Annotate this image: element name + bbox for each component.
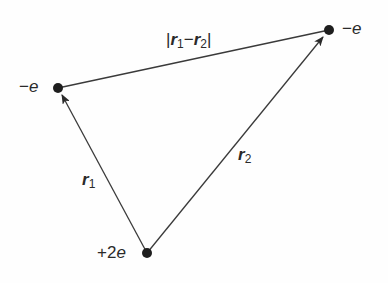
- charge-label-left: −e: [19, 77, 38, 97]
- charge-label-right: −e: [342, 19, 361, 39]
- charge-dot-bottom: [142, 248, 152, 258]
- edge-label-r1-minus-r2: |r1−r2|: [166, 30, 211, 51]
- subscript: 2: [245, 152, 252, 166]
- sign: +2: [97, 243, 116, 262]
- charge-dot-left: [53, 83, 63, 93]
- abs-close: |: [207, 30, 211, 49]
- sign: −: [19, 77, 29, 96]
- symbol: e: [352, 19, 361, 38]
- three-charge-diagram: −e −e +2e r1 r2 |r1−r2|: [0, 0, 388, 283]
- charge-label-bottom: +2e: [97, 243, 126, 263]
- minus-sign: −: [184, 30, 194, 49]
- vector-symbol: r: [238, 145, 245, 164]
- charge-dot-right: [324, 25, 334, 35]
- symbol: e: [29, 77, 38, 96]
- subscript: 1: [89, 177, 96, 191]
- vector-symbol: r: [82, 170, 89, 189]
- subscript-1: 1: [177, 37, 184, 51]
- subscript-2: 2: [200, 37, 207, 51]
- edge-label-r2: r2: [238, 145, 251, 166]
- sign: −: [342, 19, 352, 38]
- edge-r1-arrow: [62, 95, 147, 253]
- symbol: e: [116, 243, 125, 262]
- edge-r2-arrow: [147, 37, 323, 253]
- edge-label-r1: r1: [82, 170, 95, 191]
